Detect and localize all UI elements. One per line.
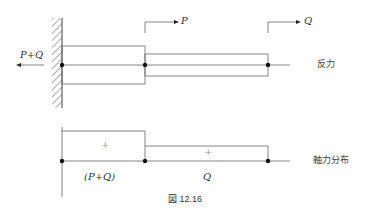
reaction-row-label: 反力 — [317, 60, 335, 69]
reaction-arrow-left — [16, 63, 44, 67]
axial-force-diagram — [62, 127, 290, 197]
segment1-sign: + — [101, 140, 109, 150]
stepped-bar — [62, 46, 290, 84]
force-arrow-q — [268, 20, 301, 33]
force-arrow-p — [145, 20, 179, 33]
diagram-graphics — [0, 0, 370, 222]
segment2-sign: + — [204, 147, 212, 157]
force-p-label: P — [181, 16, 188, 26]
figure-canvas: P+Q P Q 反力 + + (P+Q) Q 軸力分布 図 12.16 — [0, 0, 370, 222]
segment2-value: Q — [203, 172, 211, 182]
reaction-label: P+Q — [20, 50, 43, 60]
segment1-value: (P+Q) — [84, 172, 115, 182]
figure-caption: 図 12.16 — [168, 195, 202, 204]
force-q-label: Q — [304, 16, 312, 26]
axial-row-label: 軸力分布 — [313, 156, 349, 165]
fixed-wall — [52, 18, 62, 108]
